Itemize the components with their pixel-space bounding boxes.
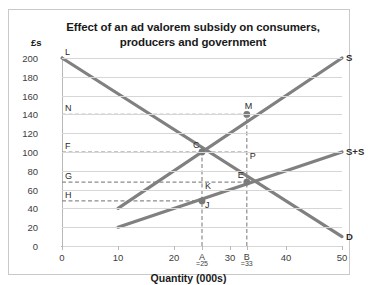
y-tick-label: 120 [8,128,38,139]
y-tick-label: 60 [8,184,38,195]
point-label-n: N [65,103,72,113]
point-label-g: G [65,171,72,181]
gridline-horizontal [62,190,342,191]
x-tick-label: 10 [98,252,138,263]
x-tick-mark [342,246,343,250]
x-tick-mark [62,246,63,250]
point-label-h: H [65,190,72,200]
x-marker-sublabel: =25 [182,260,222,267]
series-label-spluss: S+S [346,146,364,157]
point-label-e: E [238,170,244,180]
gridline-horizontal [62,77,342,78]
x-marker-tick [202,246,203,250]
gridline-horizontal [62,171,342,172]
x-tick-mark [174,246,175,250]
point-label-c: C [193,140,200,150]
gridline-horizontal [62,227,342,228]
y-tick-label: 40 [8,203,38,214]
gridline-horizontal [62,114,342,115]
x-tick-mark [118,246,119,250]
point-label-m: M [245,101,253,111]
x-tick-mark [230,246,231,250]
y-tick-label: 80 [8,165,38,176]
gridline-horizontal [62,96,342,97]
gridline-horizontal [62,152,342,153]
x-tick-label: 40 [266,252,306,263]
chart-title: Effect of an ad valorem subsidy on consu… [43,20,343,50]
x-axis-title: Quantity (000s) [9,272,368,284]
y-tick-label: 160 [8,90,38,101]
point-label-p: P [250,151,256,161]
chart-title-line-2: producers and government [120,36,267,48]
y-tick-label: 180 [8,71,38,82]
x-marker-sublabel: =33 [227,260,267,267]
point-label-f: F [65,141,71,151]
x-tick-label: 50 [322,252,362,263]
point-label-k: K [205,181,211,191]
chart-frame: Effect of an ad valorem subsidy on consu… [8,9,350,275]
series-label-d: D [346,231,353,242]
y-tick-label: 100 [8,147,38,158]
x-marker-tick [247,246,248,250]
gridline-horizontal [62,208,342,209]
point-label-j: J [205,200,210,210]
y-tick-label: 20 [8,222,38,233]
y-axis-title: £s [31,37,42,48]
y-tick-label: 0 [8,241,38,252]
point-label-l: L [65,47,70,57]
gridline-horizontal [62,58,342,59]
chart-title-line-1: Effect of an ad valorem subsidy on consu… [66,21,320,33]
x-tick-mark [286,246,287,250]
series-label-s: S [346,52,352,63]
x-tick-label: 0 [42,252,82,263]
y-tick-label: 140 [8,109,38,120]
y-tick-label: 200 [8,53,38,64]
gridline-horizontal [62,133,342,134]
